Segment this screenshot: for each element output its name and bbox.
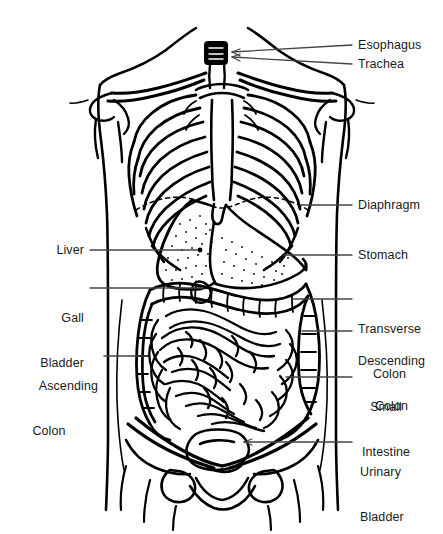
label-ascending-colon-line1: Ascending (0, 379, 98, 394)
label-small-intestine-line1: Small (362, 400, 410, 415)
anatomy-diagram: Esophagus Trachea Diaphragm Stomach Tran… (0, 0, 443, 534)
label-liver: Liver (0, 243, 84, 258)
label-urinary-bladder-line2: Bladder (360, 510, 404, 525)
label-ascending-colon: Ascending Colon (0, 349, 98, 469)
label-urinary-bladder: Urinary Bladder (360, 435, 404, 534)
label-trachea: Trachea (358, 57, 404, 72)
label-ascending-colon-line2: Colon (0, 424, 98, 439)
label-diaphragm: Diaphragm (358, 198, 420, 213)
label-urinary-bladder-line1: Urinary (360, 465, 404, 480)
label-descending-colon-line1: Descending (358, 354, 425, 369)
label-esophagus: Esophagus (358, 38, 421, 53)
label-stomach: Stomach (358, 248, 408, 263)
label-gall-bladder-line1: Gall (0, 311, 84, 326)
